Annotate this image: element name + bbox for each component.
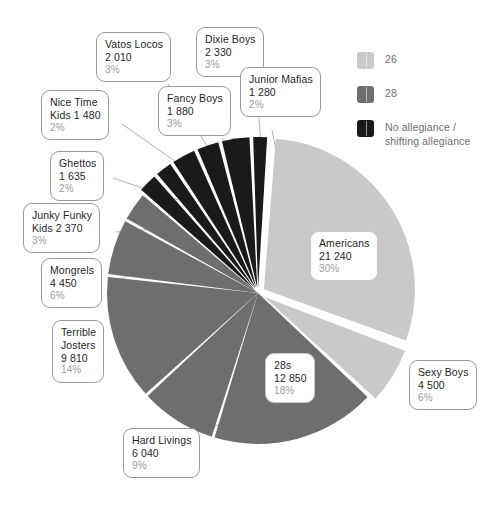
callout-sexy-boys-pct: 6%	[418, 392, 469, 404]
callout-junky-funky-kids-name-line1: Junky Funky	[32, 209, 92, 222]
callout-mongrels-value: 4 450	[50, 277, 94, 290]
legend-item-28[interactable]: 28	[357, 86, 503, 103]
legend-swatch-28	[357, 86, 374, 103]
callout-junky-funky-kids[interactable]: Junky Funky Kids 2 370 3%	[23, 203, 100, 253]
callout-americans-value: 21 240	[319, 250, 370, 263]
callout-mongrels[interactable]: Mongrels 4 450 6%	[41, 258, 102, 308]
callout-terrible-josters[interactable]: Terrible Josters 9 810 14%	[52, 320, 104, 383]
callout-terrible-josters-name-line2: Josters	[61, 339, 96, 352]
callout-fancy-boys-name: Fancy Boys	[167, 92, 223, 105]
callout-ghettos-value: 1 635	[59, 170, 96, 183]
legend-label-26: 26	[385, 52, 397, 67]
callout-junior-mafias-pct: 2%	[249, 99, 313, 111]
legend-label-no-allegiance-line1: No allegiance /	[385, 121, 456, 133]
callout-28s[interactable]: 28s 12 850 18%	[265, 353, 315, 403]
pie-slices	[107, 137, 415, 444]
callout-mongrels-name: Mongrels	[50, 264, 94, 277]
callout-nice-time-kids-name-line2: Kids 1 480	[50, 109, 101, 122]
callout-americans-name: Americans	[319, 237, 370, 250]
callout-junior-mafias[interactable]: Junior Mafias 1 280 2%	[240, 67, 321, 117]
callout-fancy-boys-value: 1 880	[167, 105, 223, 118]
legend-swatch-no-allegiance	[357, 120, 374, 137]
callout-hard-livings-pct: 9%	[132, 460, 192, 472]
callout-mongrels-pct: 6%	[50, 290, 94, 302]
callout-vatos-locos-name: Vatos Locos	[105, 38, 163, 51]
callout-fancy-boys-pct: 3%	[167, 118, 223, 130]
callout-sexy-boys-name: Sexy Boys	[418, 366, 469, 379]
callout-terrible-josters-pct: 14%	[61, 364, 96, 376]
legend-label-no-allegiance: No allegiance /shifting allegiance	[385, 120, 470, 149]
callout-terrible-josters-value: 9 810	[61, 352, 96, 365]
callout-hard-livings-name: Hard Livings	[132, 434, 192, 447]
callout-ghettos[interactable]: Ghettos 1 635 2%	[50, 151, 104, 201]
callout-ghettos-name: Ghettos	[59, 157, 96, 170]
callout-vatos-locos-value: 2 010	[105, 51, 163, 64]
callout-junky-funky-kids-pct: 3%	[32, 235, 92, 247]
callout-terrible-josters-name-line1: Terrible	[61, 326, 96, 339]
legend-label-28: 28	[385, 86, 397, 101]
callout-americans[interactable]: Americans 21 240 30%	[310, 231, 378, 281]
legend-item-no-allegiance[interactable]: No allegiance /shifting allegiance	[357, 120, 503, 149]
callout-dixie-boys-name: Dixie Boys	[205, 33, 256, 46]
callout-fancy-boys[interactable]: Fancy Boys 1 880 3%	[158, 86, 231, 136]
callout-nice-time-kids-pct: 2%	[50, 122, 101, 134]
callout-28s-pct: 18%	[274, 385, 307, 397]
callout-28s-value: 12 850	[274, 372, 307, 385]
callout-junior-mafias-value: 1 280	[249, 86, 313, 99]
callout-junior-mafias-name: Junior Mafias	[249, 73, 313, 86]
legend-label-no-allegiance-line2: shifting allegiance	[385, 135, 470, 147]
callout-vatos-locos-pct: 3%	[105, 64, 163, 76]
callout-28s-name: 28s	[274, 359, 307, 372]
callout-sexy-boys-value: 4 500	[418, 379, 469, 392]
callout-americans-pct: 30%	[319, 263, 370, 275]
callout-hard-livings-value: 6 040	[132, 447, 192, 460]
callout-nice-time-kids-name-line1: Nice Time	[50, 96, 101, 109]
legend: 26 28 No allegiance /shifting allegiance	[357, 52, 503, 166]
legend-item-26[interactable]: 26	[357, 52, 503, 69]
callout-junky-funky-kids-name-line2: Kids 2 370	[32, 222, 92, 235]
callout-hard-livings[interactable]: Hard Livings 6 040 9%	[123, 428, 200, 478]
callout-dixie-boys-value: 2 330	[205, 46, 256, 59]
callout-ghettos-pct: 2%	[59, 183, 96, 195]
callout-vatos-locos[interactable]: Vatos Locos 2 010 3%	[96, 32, 171, 82]
chart-canvas: 26 28 No allegiance /shifting allegiance…	[0, 0, 503, 505]
callout-nice-time-kids[interactable]: Nice Time Kids 1 480 2%	[41, 90, 109, 140]
legend-swatch-26	[357, 52, 374, 69]
callout-sexy-boys[interactable]: Sexy Boys 4 500 6%	[409, 360, 477, 410]
